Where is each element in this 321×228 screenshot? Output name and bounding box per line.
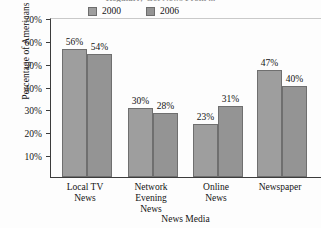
chart-legend: 20002006 <box>88 6 179 16</box>
bar-value-label: 23% <box>197 112 214 122</box>
bar-group: 47%40% <box>257 19 307 177</box>
legend-swatch-icon <box>146 7 155 16</box>
legend-item[interactable]: 2006 <box>146 6 179 16</box>
bar-chart-figure: Regularly Get News From ... Percentage o… <box>0 0 321 228</box>
category-label-line: Network <box>119 182 183 193</box>
bar-value-label: 40% <box>286 74 303 84</box>
legend-swatch-icon <box>88 7 97 16</box>
bar[interactable] <box>282 86 307 177</box>
x-axis-category-label: OnlineNews <box>184 182 248 204</box>
bar-value-label: 54% <box>91 42 108 52</box>
category-label-line: News <box>53 193 117 204</box>
y-axis-tick-label: 10% <box>25 152 42 162</box>
bar-group: 30%28% <box>128 19 178 177</box>
category-label-line: Evening <box>119 193 183 204</box>
category-label-line: Local TV <box>53 182 117 193</box>
category-label-line: Newspaper <box>248 182 312 193</box>
y-axis-tick-label: 50% <box>25 61 42 71</box>
y-axis-tick-label: 30% <box>25 106 42 116</box>
x-axis-category-label: Newspaper <box>248 182 312 193</box>
y-axis-tick: 10% <box>46 156 51 157</box>
bar[interactable] <box>218 106 243 177</box>
bar[interactable] <box>193 124 218 177</box>
y-axis-tick-label: 20% <box>25 129 42 139</box>
y-axis-tick: 40% <box>46 88 51 89</box>
y-axis-tick: 30% <box>46 110 51 111</box>
x-axis-category-label: NetworkEveningNews <box>119 182 183 215</box>
bar-value-label: 28% <box>157 101 174 111</box>
y-axis-tick-label: 40% <box>25 84 42 94</box>
bar[interactable] <box>128 108 153 177</box>
x-axis-category-label: Local TVNews <box>53 182 117 204</box>
category-label-line: Online <box>184 182 248 193</box>
y-axis-tick-label: 70% <box>25 15 42 25</box>
chart-title: Regularly Get News From ... <box>0 0 321 2</box>
legend-label: 2006 <box>160 6 179 16</box>
category-label-line: News <box>184 193 248 204</box>
bar[interactable] <box>257 70 282 177</box>
y-axis-tick: 20% <box>46 133 51 134</box>
y-axis-tick: 70% <box>46 19 51 20</box>
bar-value-label: 56% <box>66 37 83 47</box>
y-axis-tick: 60% <box>46 42 51 43</box>
bar-series-layer: 56%54%30%28%23%31%47%40% <box>52 19 321 177</box>
bar-value-label: 30% <box>132 96 149 106</box>
legend-item[interactable]: 2000 <box>88 6 121 16</box>
plot-area: 70%60%50%40%30%20%10% 56%54%30%28%23%31%… <box>50 18 321 178</box>
bar[interactable] <box>153 113 178 177</box>
legend-label: 2000 <box>102 6 121 16</box>
bar-group: 23%31% <box>193 19 243 177</box>
bar-value-label: 31% <box>222 94 239 104</box>
bar-group: 56%54% <box>62 19 112 177</box>
bar[interactable] <box>87 54 112 177</box>
bar-value-label: 47% <box>261 58 278 68</box>
y-axis-tick-label: 60% <box>25 38 42 48</box>
x-axis-title: News Media <box>50 214 321 224</box>
bar[interactable] <box>62 49 87 177</box>
y-axis-tick: 50% <box>46 65 51 66</box>
